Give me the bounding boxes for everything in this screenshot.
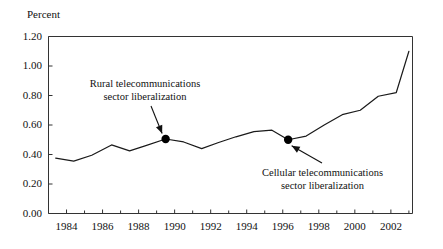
x-axis-tick-label: 1990 <box>155 220 195 232</box>
y-axis-tick-label: 0.60 <box>8 118 42 130</box>
y-axis-tick-label: 0.20 <box>8 177 42 189</box>
x-axis-tick-label: 1992 <box>191 220 231 232</box>
cellular-annotation-line1: Cellular telecommunications <box>255 167 390 180</box>
y-axis-ticks <box>49 37 53 214</box>
x-axis-tick-label: 1986 <box>83 220 123 232</box>
y-axis-tick-label: 1.20 <box>8 30 42 42</box>
rural-annotation-line1: Rural telecommunications <box>80 78 210 91</box>
annotation-arrows <box>151 106 322 163</box>
x-axis-tick-label: 1988 <box>119 220 159 232</box>
cellular-annotation-line2: sector liberalization <box>255 180 390 193</box>
plot-area <box>0 0 443 249</box>
rural-annotation-line2: sector liberalization <box>80 91 210 104</box>
x-axis-ticks <box>67 210 409 214</box>
data-line-series <box>56 51 409 161</box>
cellular-annotation: Cellular telecommunications sector liber… <box>255 167 390 192</box>
x-axis-tick-label: 1994 <box>227 220 267 232</box>
x-axis-tick-label: 2000 <box>335 220 375 232</box>
y-axis-tick-label: 1.00 <box>8 59 42 71</box>
x-axis-tick-label: 2002 <box>371 220 411 232</box>
chart-figure: Percent 1.201.000.800.600.400.200.00 198… <box>0 0 443 249</box>
rural-annotation: Rural telecommunications sector liberali… <box>80 78 210 103</box>
x-axis-tick-label: 1996 <box>263 220 303 232</box>
x-axis-tick-label: 1984 <box>47 220 87 232</box>
y-axis-tick-label: 0.80 <box>8 89 42 101</box>
y-axis-tick-label: 0.00 <box>8 207 42 219</box>
x-axis-tick-label: 1998 <box>299 220 339 232</box>
y-axis-tick-label: 0.40 <box>8 148 42 160</box>
